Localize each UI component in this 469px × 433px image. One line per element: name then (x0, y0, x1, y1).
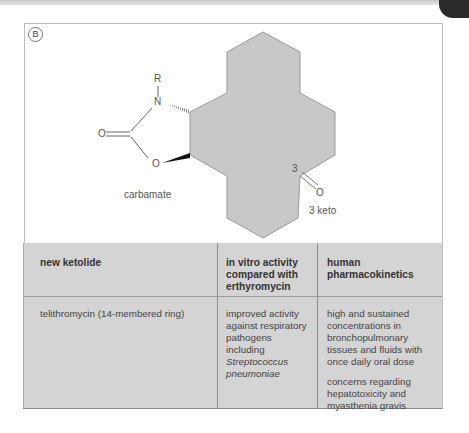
column-divider (217, 243, 218, 408)
c3-position-label: 3 (292, 163, 298, 174)
nitrogen-label: N (154, 96, 161, 107)
c-o-ring-bond (131, 137, 148, 158)
r-group-label: R (154, 73, 161, 84)
solid-wedge-bond (162, 153, 190, 163)
carbamate-annotation: carbamate (124, 189, 171, 200)
keto-double-bond-1 (300, 176, 316, 189)
ketolide-table: new ketolide in vitro activity compared … (23, 243, 443, 409)
header-human-pharmacokinetics: human pharmacokinetics (327, 257, 439, 281)
cell-pharmacokinetics: high and sustained concentrations in bro… (327, 308, 442, 412)
species-name: pneumoniae (226, 368, 280, 379)
keto-annotation: 3 keto (309, 205, 336, 216)
ring-oxygen-label: O (152, 158, 160, 169)
header-divider (24, 296, 442, 297)
carbonyl-oxygen-label: O (98, 128, 106, 139)
header-new-ketolide: new ketolide (40, 257, 210, 269)
keto-double-bond-2 (302, 172, 318, 185)
cell-in-vitro-activity: improved activity against respiratory pa… (226, 308, 318, 380)
hashed-wedge-bond (167, 104, 190, 114)
header-in-vitro-activity: in vitro activity compared with erthyrom… (226, 257, 316, 293)
n-c-bond (131, 108, 152, 131)
keto-oxygen-label: O (316, 187, 324, 198)
species-name: Streptococcus (226, 356, 288, 367)
ketolide-structure-diagram (0, 0, 461, 245)
cell-ketolide-name: telithromycin (14-membered ring) (40, 308, 215, 320)
